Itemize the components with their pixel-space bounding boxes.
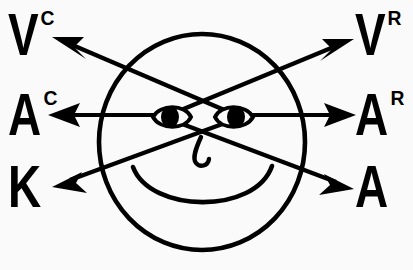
label-auditory-remembered-glyph: A (355, 85, 387, 144)
label-visual-constructed-superscript: C (41, 7, 55, 28)
label-visual-remembered-glyph: V (355, 5, 385, 64)
face-outline (99, 34, 305, 250)
label-auditory-constructed: AC (8, 88, 63, 144)
label-visual-constructed-glyph: V (8, 5, 38, 64)
label-auditory-constructed-glyph: A (8, 85, 40, 144)
label-auditory-digital-glyph: A (355, 157, 387, 216)
label-visual-remembered: VR (355, 8, 407, 64)
mouth (133, 166, 272, 202)
label-kinesthetic-glyph: K (8, 157, 40, 216)
label-kinesthetic: K (8, 160, 47, 216)
arrow-to-visual-remembered (169, 39, 354, 115)
eye-accessing-cues-diagram: VC AC K VR AR A (0, 0, 413, 270)
label-auditory-remembered-superscript: R (391, 87, 405, 108)
left-eye (153, 106, 191, 128)
nose (194, 137, 209, 166)
right-eye (215, 106, 253, 128)
label-auditory-constructed-superscript: C (44, 87, 58, 108)
label-visual-remembered-superscript: R (388, 7, 402, 28)
label-auditory-digital: A (355, 160, 394, 216)
label-visual-constructed: VC (8, 8, 60, 64)
arrow-to-auditory-constructed (48, 103, 170, 127)
label-auditory-remembered: AR (355, 88, 410, 144)
